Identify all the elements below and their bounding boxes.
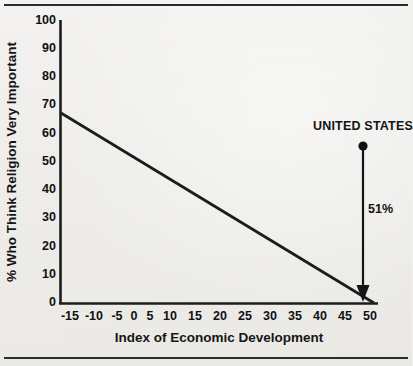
x-tick-10: 10 [163,309,177,323]
y-tick-50: 50 [28,155,56,167]
y-tick-100: 100 [28,14,56,26]
y-tick-10: 10 [28,268,56,280]
x-tick-0: 0 [131,309,138,323]
x-axis-tick-labels: -15 -10 -5 0 5 10 15 20 25 30 35 40 45 5… [60,309,378,327]
x-tick-45: 45 [338,309,352,323]
x-tick-35: 35 [288,309,302,323]
y-tick-30: 30 [28,211,56,223]
x-tick--15: -15 [61,309,79,323]
united-states-data-point [358,141,367,150]
y-tick-90: 90 [28,42,56,54]
y-axis-title: % Who Think Religion Very Important [4,41,19,281]
y-tick-60: 60 [28,127,56,139]
y-tick-80: 80 [28,70,56,82]
y-tick-20: 20 [28,240,56,252]
y-tick-0: 0 [28,296,56,308]
residual-percent-label: 51% [368,202,393,216]
x-tick-30: 30 [263,309,277,323]
x-tick-15: 15 [188,309,202,323]
x-tick-20: 20 [213,309,227,323]
regression-trend-line [61,113,374,303]
y-tick-70: 70 [28,98,56,110]
united-states-label: UNITED STATES [313,119,413,133]
x-tick-25: 25 [238,309,252,323]
x-tick-50: 50 [363,309,377,323]
x-tick-5: 5 [147,309,154,323]
x-tick--10: -10 [85,309,103,323]
y-tick-40: 40 [28,183,56,195]
y-axis-tick-labels: 100 90 80 70 60 50 40 30 20 10 0 [26,0,56,366]
y-axis-title-container: % Who Think Religion Very Important [0,20,22,303]
x-tick-40: 40 [313,309,327,323]
x-tick--5: -5 [111,309,122,323]
x-axis-title: Index of Economic Development [60,330,378,345]
